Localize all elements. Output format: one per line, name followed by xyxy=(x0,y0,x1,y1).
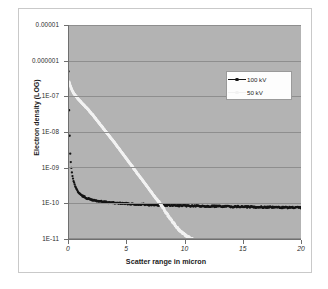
x-tick-label: 0 xyxy=(66,245,70,252)
legend-marker-50kv xyxy=(227,88,247,97)
x-tick-label: 15 xyxy=(239,245,247,252)
gridline xyxy=(68,25,301,26)
y-tick-mark xyxy=(64,203,68,204)
legend-marker-100kv xyxy=(227,75,247,84)
y-tick-mark xyxy=(64,96,68,97)
chart-card: 100 kV 50 kV 0.000010.0000011E-071E-081E… xyxy=(18,8,312,273)
gridline xyxy=(68,61,301,62)
gridline xyxy=(68,132,301,133)
series-50-kv xyxy=(68,81,194,239)
gridline xyxy=(68,167,301,168)
y-tick-label: 1E-07 xyxy=(42,92,59,99)
y-axis-title: Electron density (LOG) xyxy=(33,58,40,178)
x-tick-label: 10 xyxy=(181,245,189,252)
y-tick-label: 1E-08 xyxy=(42,128,59,135)
y-tick-label: 1E-09 xyxy=(42,164,59,171)
x-tick-mark xyxy=(68,240,69,244)
legend-label-50kv: 50 kV xyxy=(247,89,263,96)
y-tick-mark xyxy=(64,25,68,26)
x-tick-label: 20 xyxy=(297,245,305,252)
chart-legend: 100 kV 50 kV xyxy=(226,71,292,100)
x-tick-mark xyxy=(126,240,127,244)
x-tick-mark xyxy=(301,240,302,244)
x-tick-label: 5 xyxy=(124,245,128,252)
y-tick-label: 1E-10 xyxy=(42,199,59,206)
legend-entry-50kv: 50 kV xyxy=(227,86,291,99)
y-tick-mark xyxy=(64,61,68,62)
y-tick-label: 1E-11 xyxy=(42,235,59,242)
x-tick-mark xyxy=(185,240,186,244)
x-axis-title: Scatter range in micron xyxy=(19,257,313,266)
gridline xyxy=(68,203,301,204)
y-tick-label: 0.00001 xyxy=(36,21,59,28)
legend-entry-100kv: 100 kV xyxy=(227,73,291,86)
legend-label-100kv: 100 kV xyxy=(247,76,266,83)
y-axis-line xyxy=(68,25,69,239)
x-tick-mark xyxy=(243,240,244,244)
y-tick-mark xyxy=(64,132,68,133)
plot-area: 100 kV 50 kV xyxy=(68,25,301,239)
y-tick-mark xyxy=(64,168,68,169)
